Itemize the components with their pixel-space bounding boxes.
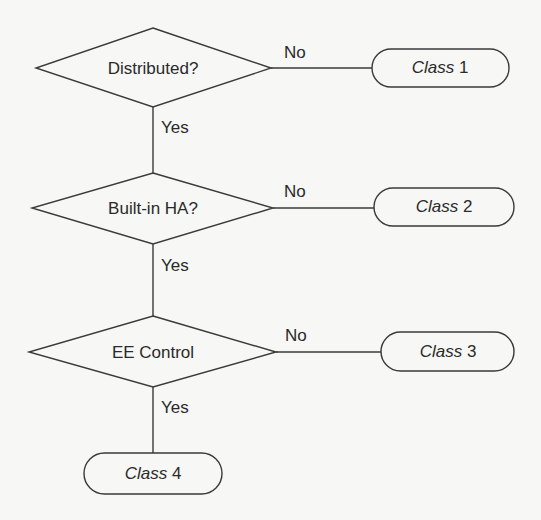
edge-label-no-2: No [284, 182, 306, 202]
terminal-number: 1 [459, 58, 468, 77]
edge-label-no-1: No [284, 43, 306, 63]
terminal-label-class-1: Class 1 [412, 58, 469, 78]
terminal-word: Class [420, 342, 463, 361]
flowchart-canvas [0, 0, 541, 520]
terminal-word: Class [416, 197, 459, 216]
edge-label-no-3: No [285, 326, 307, 346]
terminal-label-class-4: Class 4 [125, 464, 182, 484]
terminal-number: 4 [172, 464, 181, 483]
edge-label-yes-1: Yes [161, 118, 189, 138]
decision-label-ee-control: EE Control [112, 343, 194, 363]
terminal-label-class-3: Class 3 [420, 342, 477, 362]
decision-label-distributed: Distributed? [108, 59, 199, 79]
edge-label-yes-3: Yes [161, 398, 189, 418]
terminal-word: Class [412, 58, 455, 77]
terminal-number: 2 [463, 197, 472, 216]
terminal-label-class-2: Class 2 [416, 197, 473, 217]
decision-label-built-in-ha: Built-in HA? [108, 199, 198, 219]
terminal-word: Class [125, 464, 168, 483]
edge-label-yes-2: Yes [161, 256, 189, 276]
terminal-number: 3 [467, 342, 476, 361]
